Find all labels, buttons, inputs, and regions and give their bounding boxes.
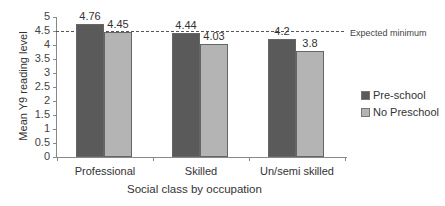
bar-no-preschool-skilled xyxy=(200,44,228,157)
bar-pre-school-skilled xyxy=(172,33,200,157)
bar-no-preschool-professional xyxy=(104,32,132,157)
legend-item-no-preschool: No Preschool xyxy=(361,106,439,118)
legend-swatch xyxy=(361,108,370,117)
legend-item-pre-school: Pre-school xyxy=(361,89,426,101)
x-axis-title: Social class by occupation xyxy=(127,183,262,195)
data-label: 3.8 xyxy=(290,37,330,49)
x-category-label: Skilled xyxy=(146,165,256,177)
data-label: 4.45 xyxy=(98,18,138,30)
bar-pre-school-professional xyxy=(76,24,104,157)
data-label: 4.44 xyxy=(166,19,206,31)
legend-label: No Preschool xyxy=(373,106,439,118)
x-category-label: Professional xyxy=(50,165,160,177)
data-label: 4.03 xyxy=(194,30,234,42)
data-label: 4.2 xyxy=(262,25,302,37)
x-category-label: Un/semi skilled xyxy=(242,165,352,177)
bar-pre-school-un-semi-skilled xyxy=(268,39,296,157)
legend-swatch xyxy=(361,91,370,100)
bar-no-preschool-un-semi-skilled xyxy=(296,51,324,157)
bar-chart: 00.511.522.533.544.55 4.764.45Profession… xyxy=(0,0,445,206)
reference-line-label: Expected minimum xyxy=(350,28,427,38)
legend-label: Pre-school xyxy=(373,89,426,101)
y-axis-title: Mean Y9 reading level xyxy=(17,26,29,146)
